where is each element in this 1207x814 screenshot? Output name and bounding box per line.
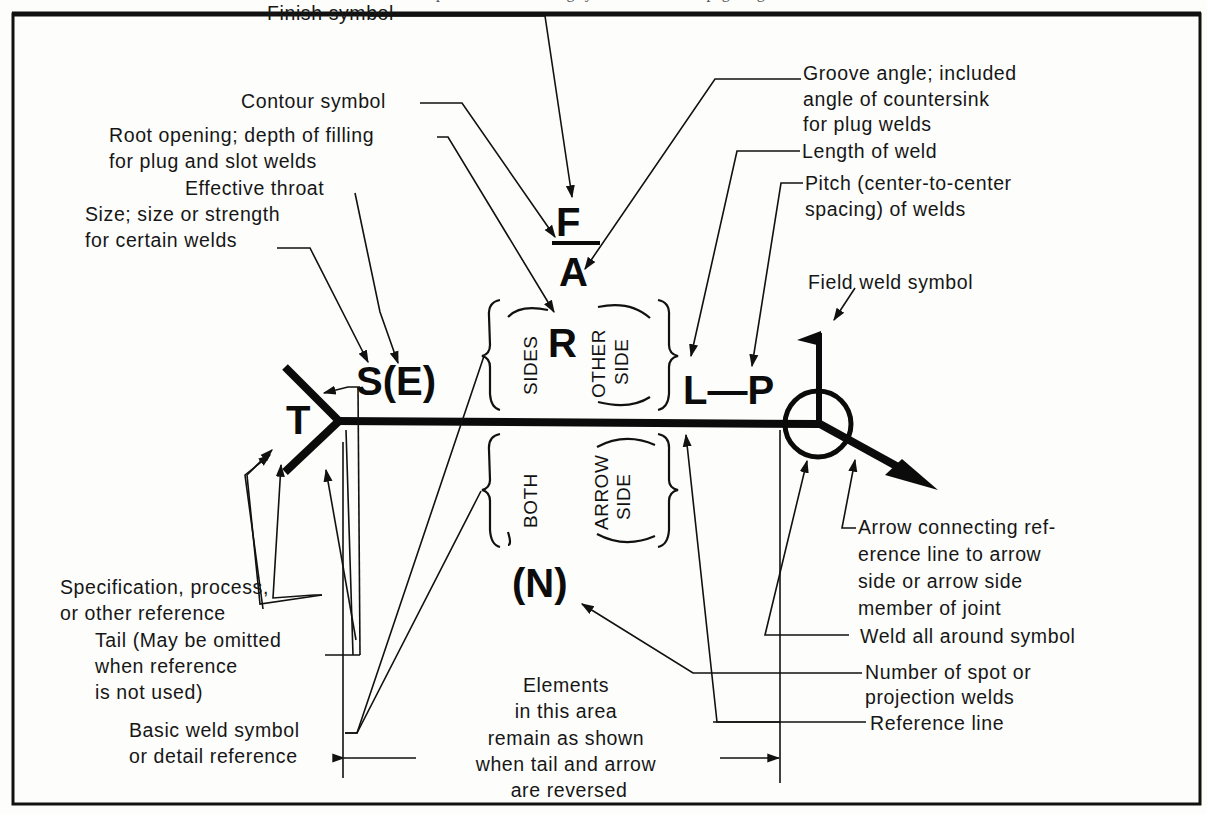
- paren-other-side-top: [598, 305, 650, 318]
- label-finish-symbol: Finish symbol: [267, 2, 394, 24]
- paren-arrow-side-bottom: [597, 534, 655, 542]
- label-pitch: Pitch (center-to-center spacing) of weld…: [805, 172, 1018, 220]
- symbol-finish-F: F: [556, 200, 580, 244]
- symbol-size-SE: S(E): [356, 359, 436, 403]
- brace-upper-right: [658, 300, 678, 410]
- label-contour-symbol: Contour symbol: [241, 90, 386, 112]
- label-field-weld-symbol: Field weld symbol: [808, 271, 973, 293]
- symbol-tail-T: T: [286, 398, 310, 442]
- rotated-other-side: SIDE: [611, 339, 632, 385]
- brace-upper-left: [482, 300, 500, 410]
- field-weld-flag-icon: [797, 331, 821, 346]
- symbol-number-N: (N): [512, 561, 568, 605]
- label-tail: Tail (May be omitted when reference is n…: [94, 629, 288, 703]
- label-basic-weld-symbol: Basic weld symbol or detail reference: [129, 719, 306, 767]
- label-root-opening: Root opening; depth of filling for plug …: [109, 124, 380, 172]
- label-effective-throat: Effective throat: [185, 177, 324, 199]
- label-elements-area: Elements in this area remain as shown wh…: [475, 674, 663, 801]
- label-arrow-connecting: Arrow connecting ref- erence line to arr…: [858, 516, 1062, 619]
- brace-lower-right: [658, 434, 678, 547]
- symbol-root-R: R: [548, 321, 577, 365]
- label-number-spot: Number of spot or projection welds: [865, 661, 1037, 708]
- symbol-angle-A: A: [559, 250, 588, 294]
- rotated-arrow-side: SIDE: [613, 474, 634, 520]
- label-weld-all-around: Weld all around symbol: [860, 625, 1076, 647]
- rotated-other: OTHER: [588, 329, 609, 398]
- paren-sides: [508, 308, 548, 317]
- label-reference-line: Reference line: [870, 712, 1004, 734]
- symbol-length-pitch: L—P: [683, 368, 774, 412]
- rotated-sides: SIDES: [520, 335, 541, 395]
- label-specification: Specification, process, or other referen…: [60, 576, 275, 624]
- label-groove-angle: Groove angle; included angle of counters…: [803, 62, 1023, 135]
- rotated-both: BOTH: [520, 473, 541, 528]
- paren-both: [508, 532, 510, 545]
- paren-arrow-side-top: [597, 439, 655, 447]
- rotated-arrow: ARROW: [591, 455, 612, 530]
- reference-line: [336, 421, 820, 424]
- welding-symbol-diagram: ... placement of welding symbol elements…: [0, 0, 1207, 814]
- header-fragment: ... placement of welding symbol elements…: [420, 0, 781, 2]
- brace-lower-left: [482, 434, 500, 547]
- label-size: Size; size or strength for certain welds: [85, 203, 286, 251]
- arrow-line: [820, 424, 900, 468]
- label-length-of-weld: Length of weld: [802, 140, 937, 162]
